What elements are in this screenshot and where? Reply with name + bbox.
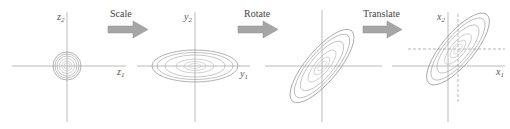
axis-label-x1-sub: 1 bbox=[500, 71, 504, 79]
rotate-arrow-icon bbox=[238, 21, 278, 38]
axis-label-z1: z1 bbox=[117, 67, 124, 79]
axis-label-z1-sub: 1 bbox=[121, 71, 125, 79]
panel-x-space bbox=[392, 4, 505, 122]
axis-label-x1: x1 bbox=[496, 67, 504, 79]
scale-arrow-icon bbox=[108, 21, 148, 38]
translate-arrow-icon bbox=[363, 21, 402, 38]
axis-label-x2: x2 bbox=[437, 12, 445, 24]
diagram-canvas bbox=[0, 0, 510, 129]
step-label-scale: Scale bbox=[110, 9, 132, 19]
axis-label-y2: y2 bbox=[184, 12, 192, 24]
panel-y-space bbox=[137, 12, 250, 122]
axis-label-z2: z2 bbox=[57, 12, 64, 24]
axis-label-y1-sub: 1 bbox=[244, 73, 248, 81]
axis-label-x2-sub: 2 bbox=[441, 16, 445, 24]
step-label-translate: Translate bbox=[363, 9, 400, 19]
gaussian-transform-diagram: Scale Rotate Translate z2 z1 y2 y1 x2 x1 bbox=[0, 0, 510, 129]
axis-label-y2-sub: 2 bbox=[188, 16, 192, 24]
axis-label-z2-sub: 2 bbox=[61, 16, 65, 24]
step-label-rotate: Rotate bbox=[244, 9, 270, 19]
axis-label-y1: y1 bbox=[240, 69, 248, 81]
